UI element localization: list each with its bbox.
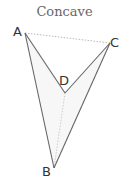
quadrilateral-fill: [25, 33, 110, 168]
vertex-label-c: C: [110, 36, 119, 49]
diagonal-ac: [25, 33, 110, 43]
vertex-label-d: D: [59, 74, 69, 87]
vertex-label-a: A: [13, 25, 22, 38]
vertex-label-b: B: [42, 165, 51, 178]
concave-quadrilateral-diagram: Concave A C D B: [0, 0, 129, 189]
